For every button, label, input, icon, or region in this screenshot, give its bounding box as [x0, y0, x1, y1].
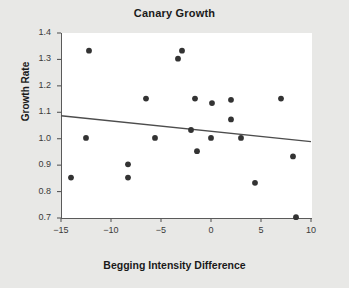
- scatter-point: [238, 135, 244, 141]
- y-axis-label: Growth Rate: [20, 32, 31, 152]
- x-tick-label: 5: [246, 225, 276, 235]
- x-tick-label: −15: [46, 225, 76, 235]
- scatter-point: [194, 148, 200, 154]
- scatter-point: [290, 154, 296, 160]
- y-tick-label: 0.9: [25, 159, 51, 169]
- scatter-point: [252, 180, 258, 186]
- scatter-point: [228, 97, 234, 103]
- y-tick-label: 0.8: [25, 186, 51, 196]
- x-tick-label: −5: [146, 225, 176, 235]
- x-tick-label: 10: [296, 225, 326, 235]
- scatter-point: [125, 175, 131, 181]
- scatter-point: [179, 48, 185, 54]
- x-axis-ticks: [61, 218, 311, 222]
- scatter-point: [68, 175, 74, 181]
- x-tick-label: −10: [96, 225, 126, 235]
- scatter-point: [192, 96, 198, 102]
- regression-line: [61, 116, 311, 142]
- scatter-point: [86, 48, 92, 54]
- trend-line: [61, 116, 311, 142]
- scatter-point: [188, 127, 194, 133]
- x-tick-label: 0: [196, 225, 226, 235]
- scatter-point: [152, 135, 158, 141]
- scatter-point: [83, 135, 89, 141]
- scatter-point: [278, 96, 284, 102]
- y-tick-label: 0.7: [25, 212, 51, 222]
- scatter-point: [228, 117, 234, 123]
- scatter-point: [125, 161, 131, 167]
- scatter-point: [293, 214, 299, 220]
- x-axis-label: Begging Intensity Difference: [0, 259, 349, 271]
- scatter-point: [209, 100, 215, 106]
- data-points: [68, 48, 299, 220]
- scatter-point: [208, 135, 214, 141]
- chart-svg: [0, 0, 349, 288]
- scatter-point: [143, 96, 149, 102]
- y-axis-ticks: [57, 33, 61, 218]
- figure-canvas: Canary Growth 0.70.80.91.01.11.21.31.4 −…: [0, 0, 349, 288]
- scatter-point: [175, 56, 181, 62]
